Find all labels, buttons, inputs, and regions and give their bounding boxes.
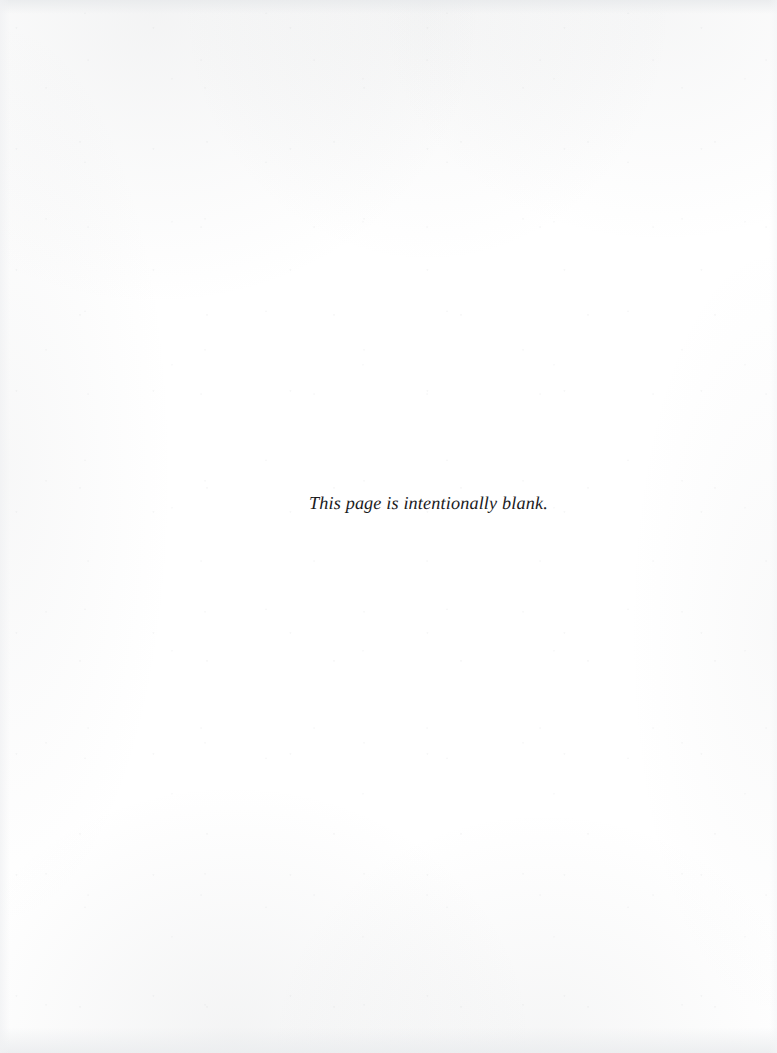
page-edge-shadow-bottom: [0, 1027, 777, 1053]
page-edge-shadow-left: [0, 0, 10, 1053]
page-edge-shadow-right: [769, 0, 777, 1053]
paper-grain-overlay: [0, 0, 777, 1053]
page-edge-shadow-top: [0, 0, 777, 14]
scan-texture-overlay: [0, 0, 777, 1053]
scanned-page: This page is intentionally blank.: [0, 0, 777, 1053]
blank-page-notice: This page is intentionally blank.: [309, 493, 548, 513]
